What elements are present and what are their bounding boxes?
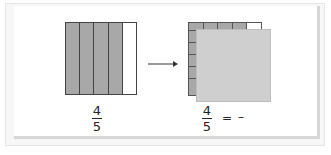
- strip-column-shaded: [109, 23, 123, 94]
- diagram-panel: [14, 6, 320, 139]
- left-numerator: 4: [90, 104, 104, 117]
- answer-blank: –: [238, 110, 244, 124]
- right-numerator: 4: [200, 104, 214, 117]
- right-fraction-label: 4 5: [200, 104, 214, 133]
- right-denominator: 5: [200, 120, 214, 133]
- strip-column-shaded: [94, 23, 108, 94]
- left-denominator: 5: [90, 120, 104, 133]
- strip-column-shaded: [66, 23, 80, 94]
- strip-column-shaded: [80, 23, 94, 94]
- left-fraction-label: 4 5: [90, 104, 104, 133]
- equals-sign: =: [222, 111, 232, 125]
- strip-column-unshaded: [123, 23, 136, 94]
- grid-overlay-square: [196, 29, 271, 102]
- right-arrow-icon: [148, 59, 178, 69]
- left-fraction-strip: [65, 22, 137, 95]
